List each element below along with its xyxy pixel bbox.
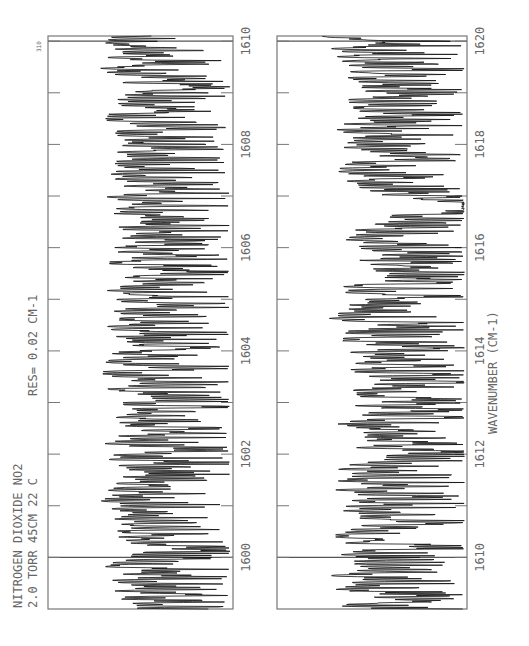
page-number: 310 xyxy=(35,41,42,52)
tick-label: 1602 xyxy=(239,440,253,469)
tick-label: 1604 xyxy=(239,336,253,365)
tick-label: 1620 xyxy=(473,27,487,56)
tick-label: 1618 xyxy=(473,130,487,159)
x-axis-title: WAVENUMBER (CM-1) xyxy=(486,311,500,434)
tick-label: 1610 xyxy=(473,543,487,572)
chart-title: NITROGEN DIOXIDE NO2 xyxy=(11,464,25,609)
tick-label: 1616 xyxy=(473,233,487,262)
spectrum-trace xyxy=(323,36,465,609)
tick-label: 1606 xyxy=(239,233,253,262)
tick-label: 1600 xyxy=(239,543,253,572)
spectrum-chart: NITROGEN DIOXIDE NO2 2.0 TORR 45CM 22 C … xyxy=(0,0,529,646)
tick-label: 1614 xyxy=(473,336,487,365)
tick-label: 1612 xyxy=(473,440,487,469)
tick-label: 1608 xyxy=(239,130,253,159)
upper-range-panel: 160016021604160616081610 xyxy=(48,27,253,609)
spectrum-trace xyxy=(101,36,230,609)
lower-range-panel: 161016121614161616181620 xyxy=(277,27,487,609)
chart-conditions: 2.0 TORR 45CM 22 C xyxy=(26,478,40,608)
tick-label: 1610 xyxy=(239,27,253,56)
resolution-annotation: RES= 0.02 CM-1 xyxy=(26,295,40,396)
